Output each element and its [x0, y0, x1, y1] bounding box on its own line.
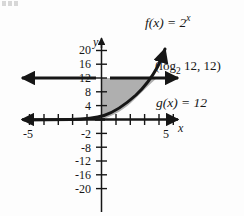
point-label-rest: 12, 12) — [181, 58, 221, 73]
f-function-label-base: f(x) = 2 — [145, 15, 186, 30]
y-tick-label-20: 20 — [57, 44, 91, 56]
x-axis-label: x — [178, 122, 183, 134]
y-axis-label: y — [93, 36, 98, 48]
y-tick-label-12: 12 — [57, 72, 91, 84]
x-tick-label-neg5: -5 — [16, 128, 40, 140]
y-tick-label-neg12: -12 — [57, 155, 91, 167]
f-function-label: f(x) = 2x — [145, 14, 191, 29]
y-tick-label-4: 4 — [57, 100, 91, 112]
y-tick-label-neg16: -16 — [57, 169, 91, 181]
exponential-log-figure: y x 20 16 12 8 4 -2 -8 -12 -16 -20 -5 5 … — [0, 0, 244, 216]
y-tick-label-neg2: -2 — [57, 128, 91, 140]
plot-canvas — [0, 0, 244, 216]
x-tick-label-5: 5 — [154, 128, 178, 140]
y-tick-label-16: 16 — [57, 58, 91, 70]
f-function-curve — [24, 49, 165, 120]
intersection-point-label: (log2 12, 12) — [155, 59, 221, 76]
y-tick-label-neg20: -20 — [57, 183, 91, 195]
point-label-open: (log — [155, 58, 176, 73]
g-function-label: g(x) = 12 — [156, 96, 207, 110]
y-tick-label-neg8: -8 — [57, 142, 91, 154]
f-function-exponent: x — [186, 13, 190, 23]
y-tick-label-8: 8 — [57, 86, 91, 98]
